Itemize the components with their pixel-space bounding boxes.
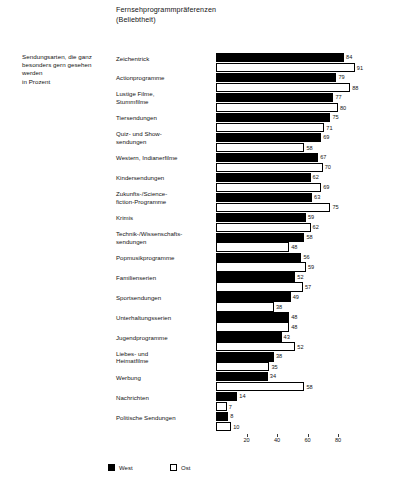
legend-label-ost: Ost xyxy=(181,465,190,471)
bar-value-ost: 59 xyxy=(308,264,314,270)
bar-west xyxy=(216,312,289,321)
category-label-line: Heimatfilme xyxy=(116,357,212,365)
bar-value-west: 69 xyxy=(323,134,329,140)
bar-west xyxy=(216,93,333,102)
bar-value-ost: 38 xyxy=(276,304,282,310)
bar-value-ost: 58 xyxy=(306,384,312,390)
category-label-line: Actionprogramme xyxy=(116,74,212,82)
category-label-line: Lustige Filme, xyxy=(116,90,212,98)
bar-value-ost: 91 xyxy=(357,65,363,71)
bar-west xyxy=(216,173,311,182)
bar-value-west: 79 xyxy=(338,74,344,80)
bar-west xyxy=(216,153,318,162)
bar-value-ost: 58 xyxy=(306,145,312,151)
category-label-line: Tiersendungen xyxy=(116,114,212,122)
bar-west xyxy=(216,332,282,341)
bar-west xyxy=(216,412,228,421)
bar-value-west: 59 xyxy=(308,214,314,220)
category-label-line: Western, Indianerfilme xyxy=(116,154,212,162)
bar-value-west: 38 xyxy=(276,353,282,359)
category-label: Politische Sendungen xyxy=(116,414,212,422)
bar-value-ost: 70 xyxy=(325,164,331,170)
category-label: Kindersendungen xyxy=(116,174,212,182)
bar-value-west: 43 xyxy=(284,334,290,340)
bar-value-ost: 48 xyxy=(291,324,297,330)
category-label: Tiersendungen xyxy=(116,114,212,122)
bar-value-ost: 7 xyxy=(229,404,232,410)
bar-value-ost: 35 xyxy=(271,364,277,370)
bar-value-ost: 10 xyxy=(233,424,239,430)
bar-value-west: 49 xyxy=(293,294,299,300)
legend-label-west: West xyxy=(119,465,133,471)
bar-ost xyxy=(216,322,289,331)
legend-item-west: West xyxy=(108,464,133,471)
bar-value-west: 75 xyxy=(332,114,338,120)
bar-value-ost: 48 xyxy=(291,244,297,250)
category-label-line: Unterhaltungsserien xyxy=(116,314,212,322)
bar-west xyxy=(216,193,312,202)
bar-value-west: 67 xyxy=(320,154,326,160)
category-label: Lustige Filme,Stummfilme xyxy=(116,90,212,105)
bar-ost xyxy=(216,123,324,132)
category-label-line: Politische Sendungen xyxy=(116,414,212,422)
bar-value-ost: 88 xyxy=(352,85,358,91)
category-label: Familienserien xyxy=(116,274,212,282)
category-label: Technik-/Wissenschafts-sendungen xyxy=(116,230,212,245)
bar-value-ost: 52 xyxy=(297,344,303,350)
x-axis-tick-label: 60 xyxy=(304,437,310,443)
bar-west xyxy=(216,352,274,361)
bar-ost xyxy=(216,83,350,92)
bar-value-west: 48 xyxy=(291,314,297,320)
category-label-line: sendungen xyxy=(116,138,212,146)
x-axis-tick-label: 80 xyxy=(335,437,341,443)
bar-value-west: 52 xyxy=(297,274,303,280)
bar-ost xyxy=(216,262,306,271)
category-label: Krimis xyxy=(116,214,212,222)
category-label: Zukunfts-/Science-fiction-Programme xyxy=(116,190,212,205)
bar-west xyxy=(216,272,295,281)
bar-ost xyxy=(216,203,330,212)
plot-area: Zeichentrick8491Actionprogramme7988Lusti… xyxy=(0,0,394,496)
category-label-line: Liebes- und xyxy=(116,350,212,358)
bar-west xyxy=(216,133,321,142)
bar-value-west: 56 xyxy=(303,254,309,260)
category-label-line: Popmusikprogramme xyxy=(116,254,212,262)
bar-ost xyxy=(216,242,289,251)
category-label: Nachrichten xyxy=(116,394,212,402)
category-label-line: Stummfilme xyxy=(116,98,212,106)
category-label: Popmusikprogramme xyxy=(116,254,212,262)
bar-west xyxy=(216,253,301,262)
bar-value-west: 62 xyxy=(313,174,319,180)
category-label-line: Familienserien xyxy=(116,274,212,282)
category-label: Unterhaltungsserien xyxy=(116,314,212,322)
bar-ost xyxy=(216,163,323,172)
bar-ost xyxy=(216,143,304,152)
bar-west xyxy=(216,392,237,401)
category-label: Werbung xyxy=(116,374,212,382)
bar-ost xyxy=(216,282,303,291)
category-label: Western, Indianerfilme xyxy=(116,154,212,162)
bar-value-ost: 75 xyxy=(332,204,338,210)
bar-ost xyxy=(216,103,338,112)
bar-west xyxy=(216,292,291,301)
category-label-line: Krimis xyxy=(116,214,212,222)
category-label-line: Jugendprogramme xyxy=(116,334,212,342)
bar-ost xyxy=(216,63,355,72)
bar-value-ost: 57 xyxy=(305,284,311,290)
bar-ost xyxy=(216,362,269,371)
bar-value-west: 8 xyxy=(230,413,233,419)
bar-west xyxy=(216,372,268,381)
bar-value-west: 84 xyxy=(346,54,352,60)
chart-page: Fernsehprogrammpräferenzen (Beliebtheit)… xyxy=(0,0,394,496)
category-label-line: Nachrichten xyxy=(116,394,212,402)
bar-west xyxy=(216,213,306,222)
bar-value-ost: 69 xyxy=(323,184,329,190)
bar-ost xyxy=(216,223,311,232)
bar-west xyxy=(216,233,304,242)
category-label: Quiz- und Show-sendungen xyxy=(116,130,212,145)
legend-swatch-west-icon xyxy=(108,464,115,471)
category-label-line: Zukunfts-/Science- xyxy=(116,190,212,198)
category-label: Actionprogramme xyxy=(116,74,212,82)
x-axis-tick-label: 20 xyxy=(243,437,249,443)
bar-value-west: 63 xyxy=(314,194,320,200)
